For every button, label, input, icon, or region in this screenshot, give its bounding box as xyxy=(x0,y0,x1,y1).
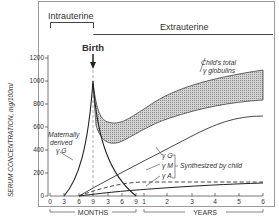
svg-text:γ G: γ G xyxy=(56,147,67,155)
svg-text:4: 4 xyxy=(213,198,217,205)
total-globulin-band xyxy=(93,70,263,143)
intrauterine-label: Intrauterine xyxy=(48,11,94,21)
iga-synthesized-curve xyxy=(79,183,263,196)
svg-text:γ globulins: γ globulins xyxy=(203,67,236,75)
svg-text:Synthesized by child: Synthesized by child xyxy=(180,162,242,170)
svg-text:γ A: γ A xyxy=(162,172,172,180)
svg-text:3: 3 xyxy=(62,198,66,205)
total-annotation: Child's total γ globulins xyxy=(201,59,236,75)
y-axis-label: SERUM CONCENTRATION, mg/100ml xyxy=(7,83,15,197)
maternal-annotation: Maternally derived γ G xyxy=(48,131,80,155)
svg-text:1200: 1200 xyxy=(30,54,45,61)
svg-text:Child's total: Child's total xyxy=(201,59,236,66)
svg-text:2: 2 xyxy=(165,198,169,205)
svg-text:1: 1 xyxy=(142,198,146,205)
immunoglobulin-chart: Intrauterine Extrauterine Birth 0 200 40… xyxy=(0,0,279,221)
svg-text:1000: 1000 xyxy=(30,77,45,84)
svg-text:9: 9 xyxy=(91,198,95,205)
svg-text:6: 6 xyxy=(261,198,265,205)
svg-text:6: 6 xyxy=(77,198,81,205)
svg-text:3: 3 xyxy=(190,198,194,205)
y-tick-labels: 0 200 400 600 800 1000 1200 xyxy=(30,54,45,199)
y-axis xyxy=(45,55,48,196)
svg-text:Maternally: Maternally xyxy=(48,131,80,139)
x-tick-labels-months: 0 3 6 9 3 6 9 xyxy=(48,198,138,205)
years-label: YEARS xyxy=(193,209,217,216)
svg-text:derived: derived xyxy=(50,139,73,146)
svg-text:3: 3 xyxy=(106,198,110,205)
months-label: MONTHS xyxy=(78,209,109,216)
svg-text:0: 0 xyxy=(48,198,52,205)
svg-text:400: 400 xyxy=(33,146,44,153)
svg-text:5: 5 xyxy=(237,198,241,205)
birth-arrow-icon xyxy=(90,54,96,69)
svg-text:800: 800 xyxy=(33,100,44,107)
synth-annotation: γ G γ M γ A Synthesized by child xyxy=(162,152,242,180)
svg-text:γ G: γ G xyxy=(162,152,173,160)
svg-text:0: 0 xyxy=(40,192,44,199)
svg-text:600: 600 xyxy=(33,123,44,130)
svg-text:9: 9 xyxy=(134,198,138,205)
svg-text:6: 6 xyxy=(120,198,124,205)
svg-text:200: 200 xyxy=(33,169,44,176)
x-tick-labels-years: 1 2 3 4 5 6 xyxy=(142,198,265,205)
svg-text:γ M: γ M xyxy=(162,162,173,170)
birth-label: Birth xyxy=(82,42,104,53)
extrauterine-label: Extrauterine xyxy=(160,22,209,32)
